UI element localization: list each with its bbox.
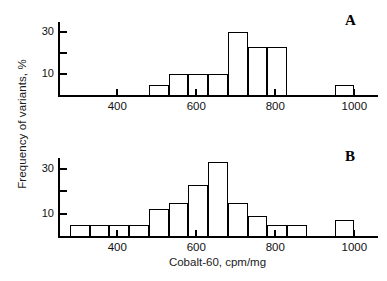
histogram-bar xyxy=(208,162,228,237)
histogram-bar xyxy=(287,225,307,237)
histogram-bar xyxy=(149,85,169,96)
y-tick-label-a-30: 30 xyxy=(32,25,54,37)
histogram-bar xyxy=(70,225,90,237)
y-tick-label-b-30: 30 xyxy=(32,162,54,174)
histogram-bar xyxy=(109,225,129,237)
y-axis-label: Frequency of variants, % xyxy=(16,24,28,224)
histogram-bar xyxy=(169,203,189,237)
x-tick-a-400 xyxy=(116,89,118,95)
y-tick-a-30 xyxy=(60,31,67,33)
histogram-bar xyxy=(248,47,268,96)
histogram-bar xyxy=(248,216,268,237)
y-tick-b-30 xyxy=(60,168,67,170)
histogram-bar xyxy=(90,225,110,237)
y-tick-label-a-10: 10 xyxy=(32,67,54,79)
y-tick-a-10 xyxy=(60,73,67,75)
y-tick-b-20 xyxy=(60,190,67,192)
histogram-bar xyxy=(335,85,355,96)
y-tick-label-b-10: 10 xyxy=(32,207,54,219)
x-tick-label-a-600: 600 xyxy=(174,100,218,112)
histogram-bar xyxy=(188,74,208,96)
y-tick-b-10 xyxy=(60,213,67,215)
histogram-figure: Frequency of variants, % A 1030400600800… xyxy=(0,0,387,281)
histogram-bar xyxy=(228,203,248,237)
histogram-bar xyxy=(228,32,248,96)
x-tick-label-b-1000: 1000 xyxy=(332,241,376,253)
histogram-bar xyxy=(335,220,355,237)
x-tick-label-a-1000: 1000 xyxy=(332,100,376,112)
panel-b-tag: B xyxy=(345,148,355,165)
x-tick-label-b-800: 800 xyxy=(253,241,297,253)
histogram-bar xyxy=(169,74,189,96)
x-tick-label-a-400: 400 xyxy=(95,100,139,112)
x-tick-label-b-600: 600 xyxy=(174,241,218,253)
x-axis-label-wrap: Cobalt-60, cpm/mg xyxy=(0,256,387,268)
histogram-bar xyxy=(188,185,208,237)
histogram-bar xyxy=(267,47,287,96)
histogram-bar xyxy=(208,74,228,96)
x-tick-label-b-400: 400 xyxy=(95,241,139,253)
histogram-bar xyxy=(149,209,169,237)
y-tick-a-20 xyxy=(60,52,67,54)
histogram-bar xyxy=(129,225,149,237)
x-tick-label-a-800: 800 xyxy=(253,100,297,112)
histogram-bar xyxy=(267,225,287,237)
x-axis-label: Cobalt-60, cpm/mg xyxy=(121,256,266,268)
panel-a-tag: A xyxy=(345,12,356,29)
